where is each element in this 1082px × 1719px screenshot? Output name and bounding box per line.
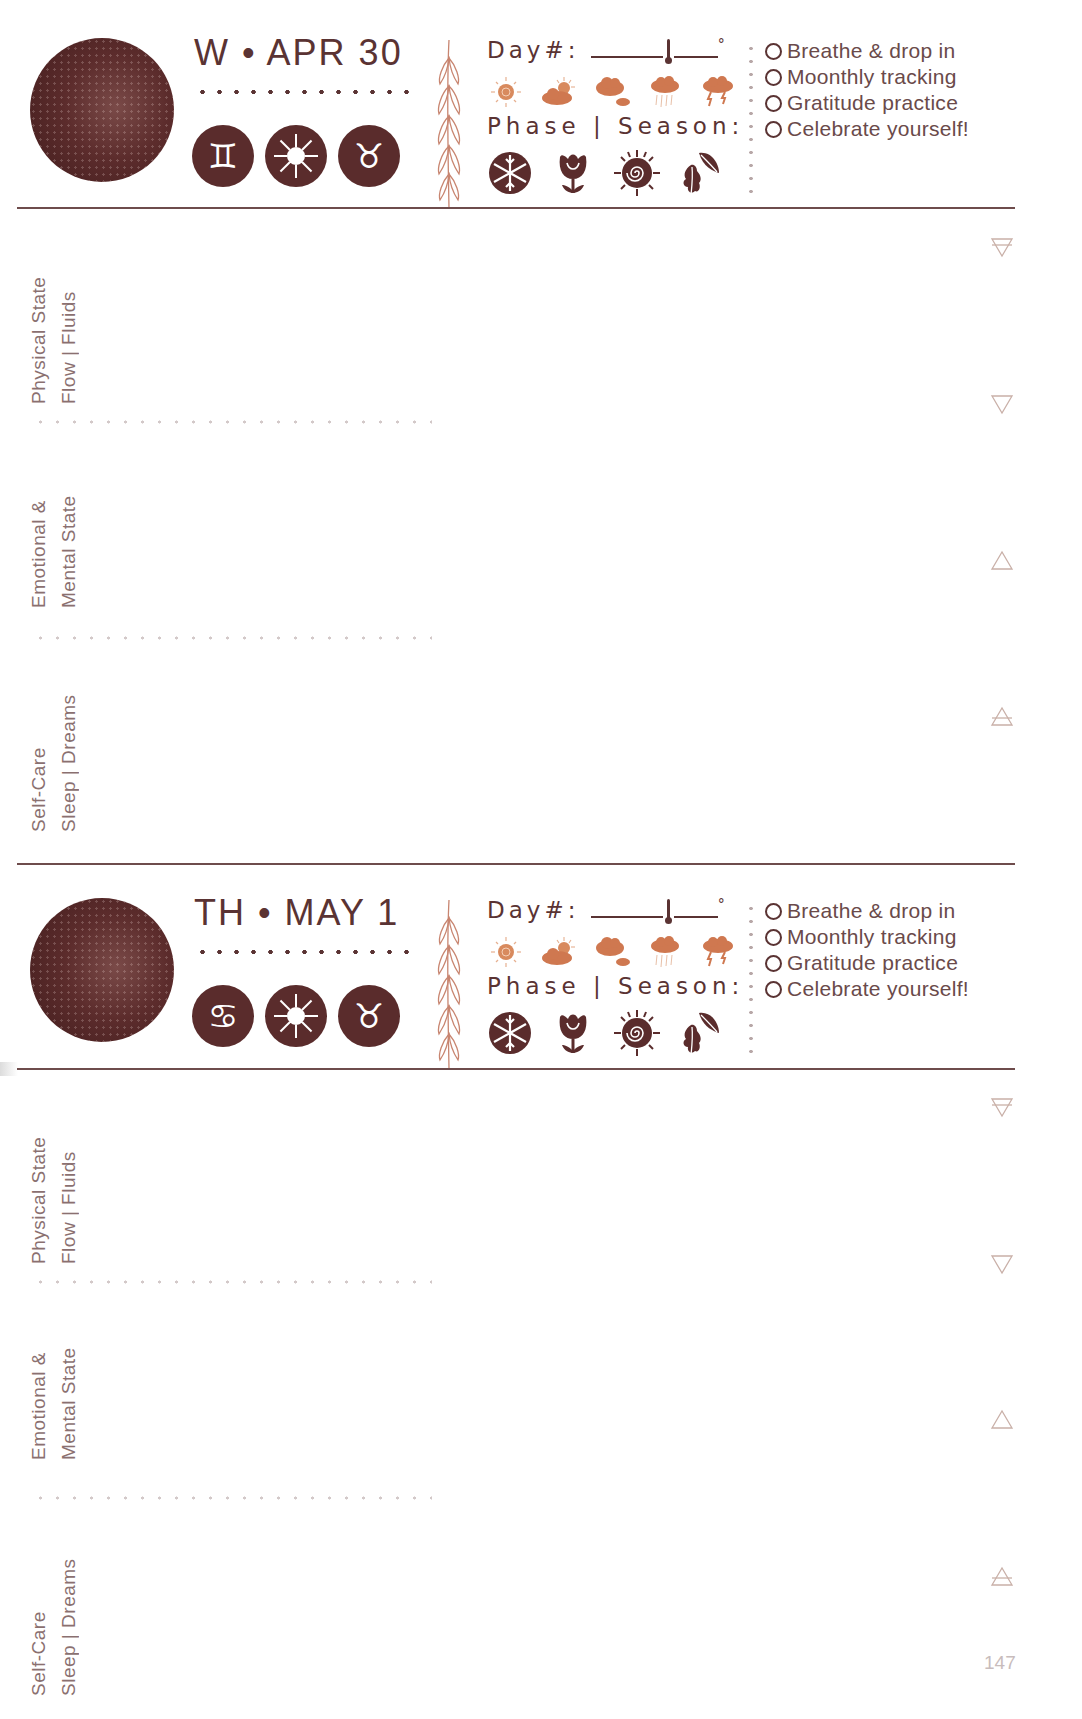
circle-checkbox[interactable] (765, 929, 782, 946)
day-number-label: Day#: (487, 37, 579, 63)
cancer-icon: ♋ (192, 985, 254, 1047)
checklist-item-breathe[interactable]: Breathe & drop in (765, 38, 969, 64)
checklist-item-celebrate[interactable]: Celebrate yourself! (765, 116, 969, 142)
summer-sun-spiral-icon[interactable] (614, 1009, 660, 1057)
air-element-icon (990, 706, 1014, 728)
circle-checkbox[interactable] (765, 903, 782, 920)
section-label-physical: Physical StateFlow | Fluids (24, 1086, 84, 1264)
temperature-blank[interactable] (674, 912, 718, 918)
date-heading: TH • MAY 1 (194, 892, 399, 934)
day-number-label: Day#: (487, 897, 579, 923)
taurus-icon: ♉ (338, 985, 400, 1047)
water-element-icon (990, 1253, 1014, 1275)
storm-icon[interactable] (699, 935, 737, 969)
section-divider (32, 636, 432, 640)
checklist-label: Moonthly tracking (787, 65, 957, 89)
checklist-item-breathe[interactable]: Breathe & drop in (765, 898, 969, 924)
section-label-physical: Physical StateFlow | Fluids (24, 226, 84, 404)
fire-element-icon (990, 1409, 1014, 1431)
sun-icon (265, 985, 327, 1047)
storm-icon[interactable] (699, 75, 737, 109)
header-rule (17, 207, 1015, 209)
sprig-divider-icon (432, 38, 466, 208)
checklist-item-gratitude[interactable]: Gratitude practice (765, 950, 969, 976)
gemini-icon: ♊ (192, 125, 254, 187)
spring-tulip-icon[interactable] (550, 1009, 596, 1057)
checklist-label: Gratitude practice (787, 951, 958, 975)
sunny-icon[interactable] (487, 935, 525, 969)
spring-tulip-icon[interactable] (550, 149, 596, 197)
weather-icons (487, 72, 737, 112)
section-label-selfcare: Self-CareSleep | Dreams (24, 1512, 84, 1696)
fire-element-icon (990, 550, 1014, 572)
checklist-label: Moonthly tracking (787, 925, 957, 949)
thermometer-icon (667, 899, 670, 921)
sunny-icon[interactable] (487, 75, 525, 109)
cloudy-icon[interactable] (593, 75, 631, 109)
page-edge-shadow (0, 1062, 18, 1076)
day-number-blank[interactable] (591, 912, 663, 918)
winter-snowflake-icon[interactable] (487, 1009, 533, 1057)
circle-checkbox[interactable] (765, 121, 782, 138)
checklist-item-moonthly[interactable]: Moonthly tracking (765, 64, 969, 90)
page-number: 147 (984, 1652, 1016, 1674)
autumn-leaves-icon[interactable] (677, 1009, 723, 1057)
header-rule (17, 1068, 1015, 1070)
day-number-field[interactable]: Day#: ° (487, 36, 725, 63)
section-divider (32, 420, 432, 424)
checklist-label: Breathe & drop in (787, 899, 956, 923)
circle-checkbox[interactable] (765, 69, 782, 86)
dotted-divider (194, 88, 416, 96)
section-label-selfcare: Self-CareSleep | Dreams (24, 652, 84, 832)
partly-cloudy-icon[interactable] (540, 935, 578, 969)
vertical-dotted-divider (749, 42, 753, 202)
daily-checklist: Breathe & drop in Moonthly tracking Grat… (765, 898, 969, 1002)
day-number-blank[interactable] (591, 52, 663, 58)
waning-moon-icon (30, 898, 174, 1042)
dotted-divider (194, 948, 416, 956)
summer-sun-spiral-icon[interactable] (614, 149, 660, 197)
checklist-label: Celebrate yourself! (787, 977, 969, 1001)
section-label-emotional: Emotional &Mental State (24, 1300, 84, 1460)
cloudy-icon[interactable] (593, 935, 631, 969)
circle-checkbox[interactable] (765, 95, 782, 112)
vertical-dotted-divider (749, 902, 753, 1062)
section-divider (32, 1280, 432, 1284)
season-icons (487, 148, 723, 198)
partly-cloudy-icon[interactable] (540, 75, 578, 109)
taurus-icon: ♉ (338, 125, 400, 187)
phase-season-label: Phase | Season: (487, 973, 744, 999)
rain-icon[interactable] (646, 935, 684, 969)
winter-snowflake-icon[interactable] (487, 149, 533, 197)
checklist-item-moonthly[interactable]: Moonthly tracking (765, 924, 969, 950)
sun-core (287, 147, 305, 165)
degree-symbol: ° (718, 36, 725, 52)
degree-symbol: ° (718, 896, 725, 912)
circle-checkbox[interactable] (765, 43, 782, 60)
autumn-leaves-icon[interactable] (677, 149, 723, 197)
thermometer-icon (667, 39, 670, 61)
air-element-icon (990, 1566, 1014, 1588)
circle-checkbox[interactable] (765, 981, 782, 998)
checklist-item-gratitude[interactable]: Gratitude practice (765, 90, 969, 116)
sun-core (287, 1007, 305, 1025)
earth-element-icon (990, 1096, 1014, 1118)
sprig-divider-icon (432, 898, 466, 1068)
day-number-field[interactable]: Day#: ° (487, 896, 725, 923)
day-separator-rule (17, 863, 1015, 865)
section-divider (32, 1496, 432, 1500)
temperature-blank[interactable] (674, 52, 718, 58)
checklist-label: Celebrate yourself! (787, 117, 969, 141)
date-heading: W • APR 30 (194, 32, 403, 74)
sun-icon (265, 125, 327, 187)
checklist-item-celebrate[interactable]: Celebrate yourself! (765, 976, 969, 1002)
rain-icon[interactable] (646, 75, 684, 109)
weather-icons (487, 932, 737, 972)
season-icons (487, 1008, 723, 1058)
daily-checklist: Breathe & drop in Moonthly tracking Grat… (765, 38, 969, 142)
checklist-label: Gratitude practice (787, 91, 958, 115)
circle-checkbox[interactable] (765, 955, 782, 972)
section-label-emotional: Emotional &Mental State (24, 448, 84, 608)
phase-season-label: Phase | Season: (487, 113, 744, 139)
water-element-icon (990, 393, 1014, 415)
